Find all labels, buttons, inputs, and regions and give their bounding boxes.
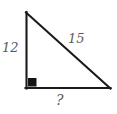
right-angle-square-icon — [28, 78, 37, 87]
geometry-figure: 12 15 ? — [0, 0, 117, 114]
side-label-vertical-leg: 12 — [2, 41, 19, 54]
side-label-hypotenuse: 15 — [68, 32, 85, 45]
hypotenuse-line — [26, 13, 111, 89]
side-label-horizontal-leg: ? — [56, 93, 64, 107]
